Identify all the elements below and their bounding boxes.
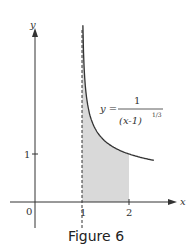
- tick-label-y-1: 1: [24, 149, 30, 160]
- figure-caption: Figure 6: [0, 228, 192, 244]
- svg-text:y =: y =: [99, 103, 117, 114]
- svg-text:(x-1): (x-1): [119, 115, 142, 126]
- svg-text:1/3: 1/3: [152, 111, 162, 118]
- svg-text:1: 1: [134, 95, 140, 106]
- equation-label: y = 1 (x-1) 1/3: [99, 95, 163, 126]
- x-axis-label: x: [180, 196, 186, 207]
- y-axis-label: y: [29, 19, 36, 30]
- tick-label-0: 0: [26, 206, 32, 217]
- figure: y x 0 1 2 1 y = 1 (x-1) 1/3: [0, 0, 192, 248]
- tick-label-x-1: 1: [80, 207, 86, 218]
- x-axis-arrow-icon: [168, 199, 177, 205]
- tick-label-x-2: 2: [126, 207, 132, 218]
